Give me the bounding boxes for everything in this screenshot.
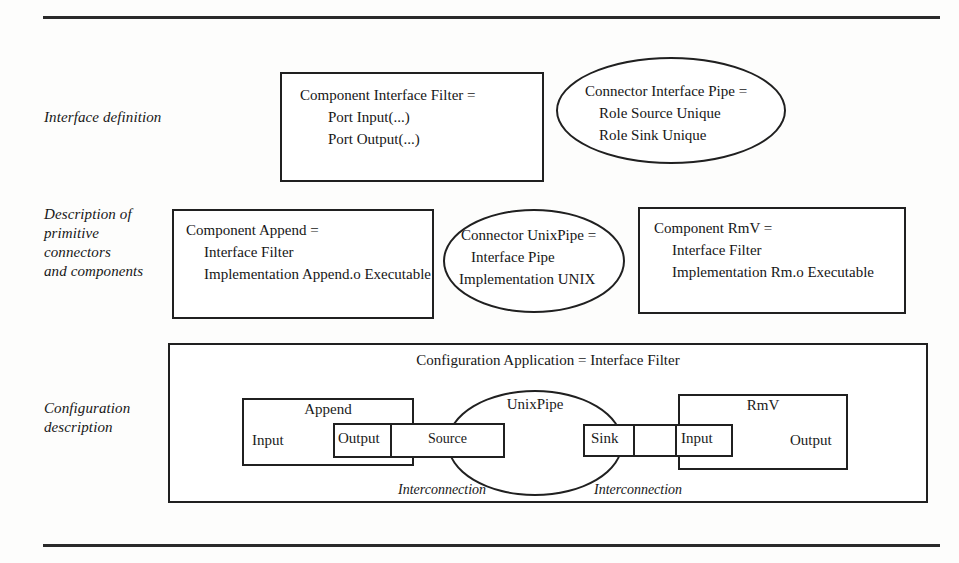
row-label-configuration-description: Configuration description	[44, 399, 184, 437]
component-append-text: Component Append = Interface Filter Impl…	[186, 219, 431, 285]
spec-line: Implementation Append.o Executable	[204, 263, 431, 285]
spec-line: Interface Pipe	[471, 246, 596, 268]
connector-interface-pipe-text: Connector Interface Pipe = Role Source U…	[585, 80, 747, 146]
connector-unixpipe-text: Connector UnixPipe = Interface Pipe Impl…	[459, 224, 596, 290]
append-output-port-label: Output	[338, 430, 380, 447]
spec-line: Component Append =	[186, 219, 431, 241]
architecture-figure: Interface definition Description of prim…	[0, 0, 959, 563]
append-instance-input-port: Input	[252, 432, 284, 449]
spec-line: Role Sink Unique	[599, 124, 747, 146]
row-label-line: connectors	[44, 243, 184, 262]
bottom-horizontal-rule	[43, 544, 940, 547]
row-label-line: Description of	[44, 205, 184, 224]
spec-line: Implementation Rm.o Executable	[672, 261, 874, 283]
spec-line: Implementation UNIX	[459, 268, 596, 290]
component-rmv-text: Component RmV = Interface Filter Impleme…	[654, 217, 874, 283]
spec-line: Connector Interface Pipe =	[585, 80, 747, 102]
rmv-input-port-label: Input	[681, 430, 713, 447]
spec-line: Component Interface Filter =	[300, 84, 476, 106]
unixpipe-source-role-label: Source	[428, 431, 467, 447]
spec-line: Connector UnixPipe =	[461, 224, 596, 246]
left-interconnection-label: Interconnection	[398, 482, 486, 498]
rmv-instance-output-port: Output	[790, 432, 832, 449]
append-instance-name: Append	[242, 401, 414, 418]
spec-line: Role Source Unique	[599, 102, 747, 124]
spec-line: Interface Filter	[672, 239, 874, 261]
spec-line: Interface Filter	[204, 241, 431, 263]
unixpipe-instance-name: UnixPipe	[447, 396, 623, 413]
spec-line: Component RmV =	[654, 217, 874, 239]
row-label-primitive-description: Description of primitive connectors and …	[44, 205, 184, 281]
spec-line: Port Output(...)	[328, 128, 476, 150]
row-label-line: Interface definition	[44, 108, 161, 127]
component-interface-filter-text: Component Interface Filter = Port Input(…	[300, 84, 476, 150]
row-label-line: and components	[44, 262, 184, 281]
row-label-line: description	[44, 418, 184, 437]
configuration-application-title: Configuration Application = Interface Fi…	[168, 352, 928, 369]
rmv-instance-name: RmV	[678, 397, 848, 414]
spec-line: Port Input(...)	[328, 106, 476, 128]
top-horizontal-rule	[43, 16, 940, 19]
row-label-line: Configuration	[44, 399, 184, 418]
row-label-interface-definition: Interface definition	[44, 108, 161, 127]
row-label-line: primitive	[44, 224, 184, 243]
right-interconnection-label: Interconnection	[594, 482, 682, 498]
unixpipe-sink-role-label: Sink	[591, 430, 619, 447]
